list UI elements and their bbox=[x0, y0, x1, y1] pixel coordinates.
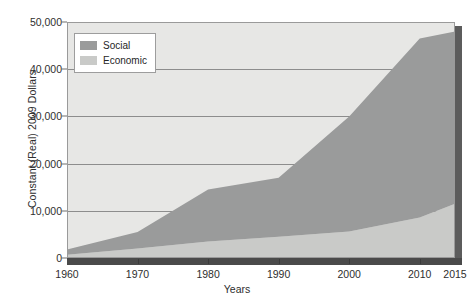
x-tick-label: 2015 bbox=[425, 268, 474, 280]
legend-item[interactable]: Economic bbox=[80, 53, 150, 68]
x-tick-mark bbox=[208, 259, 209, 264]
x-axis-ticks: 1960197019801990200020102015 bbox=[0, 0, 474, 301]
x-tick-label: 1980 bbox=[178, 268, 238, 280]
legend-label: Social bbox=[103, 40, 130, 51]
legend-swatch-icon bbox=[80, 41, 97, 50]
x-axis-title: Years bbox=[0, 283, 474, 295]
chart-legend: SocialEconomic bbox=[74, 33, 156, 73]
legend-label: Economic bbox=[103, 55, 147, 66]
stacked-area-chart: Constant (Real) 2009 Dollars 010,00020,0… bbox=[0, 0, 474, 301]
x-tick-mark bbox=[138, 259, 139, 264]
legend-item[interactable]: Social bbox=[80, 38, 150, 53]
x-tick-label: 1970 bbox=[108, 268, 168, 280]
x-tick-label: 1990 bbox=[249, 268, 309, 280]
x-tick-mark bbox=[420, 259, 421, 264]
x-tick-mark bbox=[279, 259, 280, 264]
legend-swatch-icon bbox=[80, 56, 97, 65]
x-tick-label: 2000 bbox=[319, 268, 379, 280]
x-tick-mark bbox=[349, 259, 350, 264]
x-tick-label: 1960 bbox=[37, 268, 97, 280]
